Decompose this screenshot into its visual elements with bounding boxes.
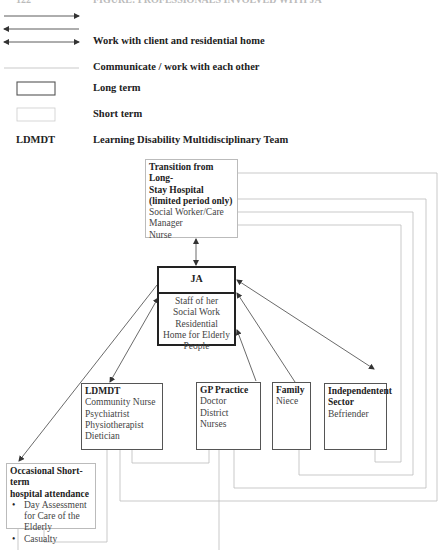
- node-member: Niece: [276, 396, 307, 407]
- node-bullet: Casualty: [24, 534, 92, 545]
- node-member: Psychiatrist: [85, 409, 159, 420]
- node-transition-hospital: Transition from Long- Stay Hospital (lim…: [145, 159, 238, 238]
- node-title-line: Transition from Long-: [149, 162, 234, 185]
- legend-label-work-with-client: Work with client and residential home: [93, 35, 265, 46]
- node-member: Physiotherapist: [85, 420, 159, 431]
- legend-label-long-term: Long term: [93, 82, 141, 93]
- node-member: Community Nurse: [85, 397, 159, 408]
- node-family: Family Niece: [272, 382, 311, 450]
- legend-abbreviation: LDMDT: [16, 134, 55, 145]
- node-gp-practice: GP Practice Doctor District Nurses: [196, 382, 261, 450]
- node-title-line: Occasional Short-term: [10, 466, 92, 489]
- node-title-line: Sector: [328, 397, 383, 408]
- node-member: Social Worker/Care: [149, 207, 234, 218]
- legend-symbols: [4, 16, 79, 121]
- node-ja-title: JA: [159, 268, 234, 294]
- node-title-line: (limited period only): [149, 196, 234, 207]
- node-ja-body: Staff of her Social Work Residential Hom…: [159, 294, 234, 354]
- legend-label-communicate: Communicate / work with each other: [93, 61, 260, 72]
- node-member: Dietician: [85, 431, 159, 442]
- node-bullet-list: Day Assessment for Care of the Elderly C…: [10, 500, 92, 545]
- node-member: Manager: [149, 218, 234, 229]
- node-ja: JA Staff of her Social Work Residential …: [157, 266, 236, 346]
- legend-label-short-term: Short term: [93, 108, 142, 119]
- node-member: Doctor: [200, 396, 257, 407]
- node-title-line: hospital attendance: [10, 489, 92, 500]
- node-title: GP Practice: [200, 385, 257, 396]
- node-bullet: Day Assessment for Care of the Elderly: [24, 500, 92, 534]
- node-independent-sector: Independentent Sector Befriender: [324, 383, 387, 450]
- node-occasional-hospital: Occasional Short-term hospital attendanc…: [6, 463, 96, 529]
- node-member: District Nurses: [200, 408, 257, 431]
- node-ldmdt: LDMDT Community Nurse Psychiatrist Physi…: [81, 383, 163, 450]
- node-title-line: Stay Hospital: [149, 185, 234, 196]
- node-member: Nurse: [149, 230, 234, 241]
- node-title: LDMDT: [85, 386, 159, 397]
- node-member: Befriender: [328, 409, 383, 420]
- node-title-line: Independentent: [328, 386, 383, 397]
- node-title: Family: [276, 385, 307, 396]
- legend-abbreviation-meaning: Learning Disability Multidisciplinary Te…: [93, 134, 288, 145]
